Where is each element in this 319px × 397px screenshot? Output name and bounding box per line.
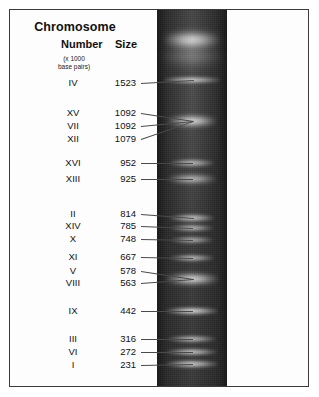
page-title: Chromosome (0, 20, 150, 34)
chromosome-number-I: I (50, 360, 96, 370)
chromosome-size-VII: 1092 (92, 121, 136, 131)
gel-sheen (157, 10, 227, 386)
chromosome-size-II: 814 (92, 209, 136, 219)
chromosome-size-XIII: 925 (92, 174, 136, 184)
gel-lane (157, 10, 227, 386)
gel-figure: Chromosome Number Size (x 1000 base pair… (0, 0, 319, 397)
chromosome-size-VIII: 563 (92, 278, 136, 288)
chromosome-number-XI: XI (50, 252, 96, 262)
loading-well (164, 32, 220, 48)
chromosome-number-IX: IX (50, 306, 96, 316)
well-smear (161, 46, 223, 66)
chromosome-number-XV: XV (50, 108, 96, 118)
units-note-line1: (x 1000 (0, 55, 148, 63)
chromosome-size-III: 316 (92, 334, 136, 344)
chromosome-number-X: X (50, 234, 96, 244)
leader-line-XIII (141, 179, 193, 180)
column-header-size: Size (115, 38, 137, 50)
chromosome-size-VI: 272 (92, 347, 136, 357)
chromosome-size-XI: 667 (92, 252, 136, 262)
chromosome-size-IX: 442 (92, 306, 136, 316)
chromosome-size-X: 748 (92, 234, 136, 244)
chromosome-number-XVI: XVI (50, 158, 96, 168)
units-note-line2: base pairs) (0, 63, 148, 71)
chromosome-number-XII: XII (50, 134, 96, 144)
chromosome-number-VIII: VIII (50, 278, 96, 288)
gel-texture (157, 10, 227, 386)
chromosome-number-IV: IV (50, 78, 96, 88)
chromosome-number-XIII: XIII (50, 174, 96, 184)
chromosome-size-V: 578 (92, 266, 136, 276)
chromosome-size-XIV: 785 (92, 221, 136, 231)
chromosome-number-II: II (50, 209, 96, 219)
chromosome-number-VII: VII (50, 121, 96, 131)
chromosome-size-IV: 1523 (92, 78, 136, 88)
column-header-number: Number (61, 38, 103, 50)
chromosome-number-V: V (50, 266, 96, 276)
chromosome-size-XV: 1092 (92, 108, 136, 118)
chromosome-size-XVI: 952 (92, 158, 136, 168)
chromosome-number-III: III (50, 334, 96, 344)
chromosome-number-XIV: XIV (50, 221, 96, 231)
leader-line-III (141, 339, 193, 340)
chromosome-number-VI: VI (50, 347, 96, 357)
leader-line-IX (141, 311, 193, 312)
leader-line-XVI (141, 163, 193, 164)
chromosome-size-I: 231 (92, 360, 136, 370)
leader-line-VI (141, 352, 193, 353)
chromosome-size-XII: 1079 (92, 134, 136, 144)
